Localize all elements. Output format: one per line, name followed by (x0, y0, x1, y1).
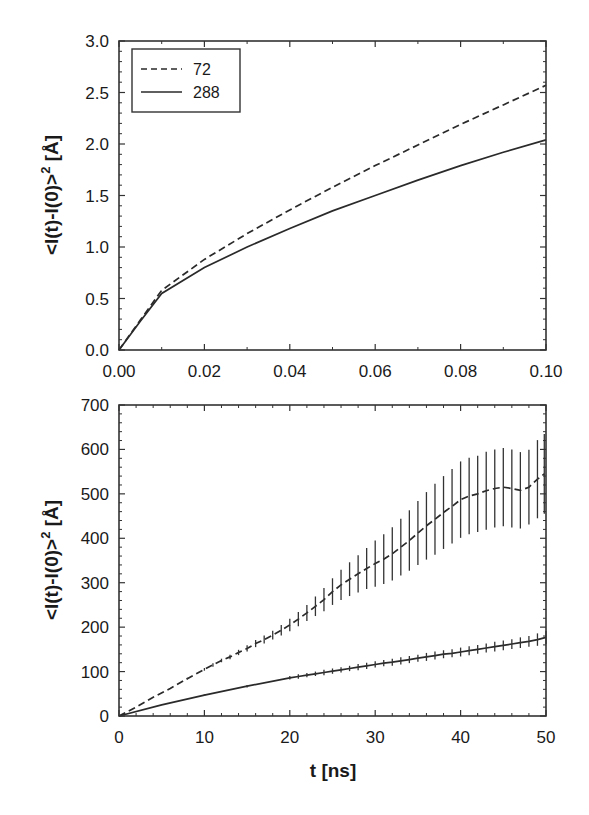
y-tick-label: 0 (100, 707, 109, 726)
x-tick-label: 10 (195, 728, 214, 747)
top-y-axis-title: <l(t)-l(0)>2 [Å] (38, 135, 62, 255)
x-tick-label: 30 (366, 728, 385, 747)
legend-box (132, 49, 240, 112)
y-tick-label: 0.0 (85, 341, 109, 360)
y-tick-label: 100 (81, 663, 109, 682)
y-tick-label: 600 (81, 440, 109, 459)
y-tick-label: 500 (81, 485, 109, 504)
x-tick-label: 50 (537, 728, 556, 747)
x-tick-label: 0.10 (529, 362, 562, 381)
bottom-plot-area (119, 434, 546, 716)
bottom-y-axis-title: <l(t)-l(0)>2 [Å] (38, 500, 62, 620)
y-tick-label: 3.0 (85, 32, 109, 51)
figure: 0.000.020.040.060.080.100.00.51.01.52.02… (0, 0, 589, 815)
x-tick-label: 20 (280, 728, 299, 747)
x-tick-label: 0.02 (188, 362, 221, 381)
x-tick-label: 40 (451, 728, 470, 747)
top-plot-area (119, 85, 546, 350)
x-tick-label: 0.00 (102, 362, 135, 381)
legend-label-288: 288 (193, 84, 220, 101)
legend: 72 288 (132, 49, 240, 112)
y-tick-label: 700 (81, 396, 109, 415)
series-line-288 (119, 637, 546, 716)
series-line-72 (119, 474, 544, 716)
y-tick-label: 2.0 (85, 135, 109, 154)
y-tick-label: 1.0 (85, 238, 109, 257)
y-tick-label: 300 (81, 574, 109, 593)
x-tick-label: 0.04 (273, 362, 306, 381)
y-tick-label: 2.5 (85, 84, 109, 103)
x-tick-label: 0.06 (359, 362, 392, 381)
top-panel: 0.000.020.040.060.080.100.00.51.01.52.02… (38, 32, 563, 381)
series-line-288 (119, 140, 546, 350)
bottom-tick-labels: 010203040500100200300400500600700 (81, 396, 556, 747)
bottom-panel: 010203040500100200300400500600700 <l(t)-… (38, 396, 555, 781)
x-tick-label: 0 (114, 728, 123, 747)
y-tick-label: 200 (81, 618, 109, 637)
series-line-72 (119, 85, 546, 350)
legend-label-72: 72 (193, 61, 211, 78)
y-tick-label: 0.5 (85, 290, 109, 309)
y-tick-label: 1.5 (85, 187, 109, 206)
bottom-x-axis-title: t [ns] (310, 760, 356, 781)
y-tick-label: 400 (81, 529, 109, 548)
x-tick-label: 0.08 (444, 362, 477, 381)
